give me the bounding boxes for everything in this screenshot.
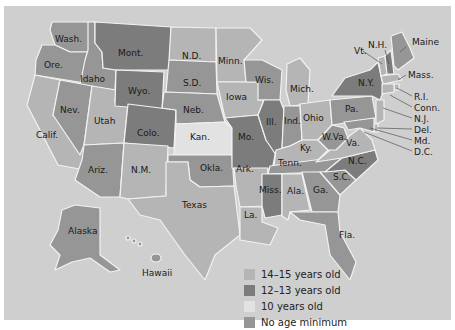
label-wyo: Wyo. (128, 86, 150, 96)
label-wis: Wis. (255, 75, 274, 85)
legend-label: 14–15 years old (261, 269, 341, 280)
label-nh: N.H. (368, 40, 387, 50)
state-ri[interactable] (394, 84, 399, 90)
leader-conn (390, 95, 412, 107)
state-colo[interactable] (124, 104, 176, 148)
label-ri: R.I. (414, 92, 428, 102)
leader-md (370, 128, 412, 140)
label-mass: Mass. (408, 70, 434, 80)
label-mont: Mont. (118, 48, 143, 58)
label-texas: Texas (181, 200, 207, 210)
label-hawaii: Hawaii (142, 268, 172, 278)
label-mo: Mo. (238, 132, 254, 142)
state-mich[interactable] (286, 58, 310, 106)
leader-ri (397, 88, 412, 96)
state-maine[interactable] (391, 32, 414, 70)
state-sd[interactable] (166, 60, 217, 94)
us-map: Wash. Ore. Calif. Idaho Nev. Utah Ariz. … (4, 6, 451, 320)
label-nm: N.M. (131, 165, 151, 175)
label-nev: Nev. (60, 105, 80, 115)
label-va: Va. (346, 138, 360, 148)
label-nj: N.J. (414, 114, 429, 124)
leader-del (377, 128, 412, 129)
label-nd: N.D. (182, 51, 201, 61)
label-ill: Ill. (266, 117, 277, 127)
label-ky: Ky. (300, 143, 312, 153)
label-vt: Vt. (354, 46, 367, 56)
legend-label: 12–13 years old (261, 285, 341, 296)
label-del: Del. (414, 125, 432, 135)
legend-swatch (244, 301, 255, 312)
label-sc: S.C. (333, 172, 351, 182)
label-calif: Calif. (36, 130, 58, 140)
state-nj[interactable] (376, 100, 384, 124)
label-mich: Mich. (290, 84, 314, 94)
label-ala: Ala. (287, 186, 304, 196)
state-hawaii[interactable] (126, 236, 161, 262)
state-mass[interactable] (381, 74, 402, 84)
legend-swatch (244, 269, 255, 280)
leader-nj (383, 108, 412, 118)
label-ore: Ore. (44, 60, 63, 70)
label-alaska: Alaska (68, 226, 97, 236)
label-kan: Kan. (190, 132, 210, 142)
label-conn: Conn. (414, 103, 440, 113)
label-maine: Maine (412, 37, 439, 47)
label-ark: Ark. (236, 164, 254, 174)
state-alaska[interactable] (50, 205, 120, 272)
map-frame: Wash. Ore. Calif. Idaho Nev. Utah Ariz. … (4, 6, 451, 320)
label-iowa: Iowa (226, 92, 247, 102)
label-la: La. (244, 210, 257, 220)
label-md: Md. (414, 136, 430, 146)
label-dc: D.C. (414, 147, 433, 157)
legend-item-12-13: 12–13 years old (244, 282, 347, 298)
label-minn: Minn. (218, 56, 243, 66)
legend-item-14-15: 14–15 years old (244, 266, 347, 282)
label-ariz: Ariz. (88, 165, 108, 175)
label-wva: W.Va. (322, 132, 347, 142)
legend-item-none: No age minimum (244, 314, 347, 330)
label-neb: Neb. (183, 105, 204, 115)
label-utah: Utah (94, 116, 115, 126)
state-miss[interactable] (262, 174, 282, 218)
label-fla: Fla. (339, 230, 355, 240)
label-okla: Okla. (200, 163, 223, 173)
label-ind: Ind. (284, 116, 301, 126)
legend-swatch (244, 285, 255, 296)
label-ohio: Ohio (303, 113, 324, 123)
legend-item-10: 10 years old (244, 298, 347, 314)
label-idaho: Idaho (80, 74, 106, 84)
label-ga: Ga. (313, 185, 328, 195)
label-nc: N.C. (348, 156, 367, 166)
state-conn[interactable] (382, 84, 394, 94)
label-sd: S.D. (183, 78, 201, 88)
legend-swatch (244, 317, 255, 328)
label-miss: Miss. (259, 185, 282, 195)
label-colo: Colo. (137, 128, 160, 138)
legend: 14–15 years old 12–13 years old 10 years… (244, 266, 347, 330)
label-ny: N.Y. (358, 78, 374, 88)
legend-label: 10 years old (261, 301, 323, 312)
label-pa: Pa. (345, 104, 358, 114)
legend-label: No age minimum (261, 317, 347, 328)
state-mont[interactable] (95, 22, 171, 70)
label-wash: Wash. (55, 34, 82, 44)
label-tenn: Tenn. (277, 158, 302, 168)
